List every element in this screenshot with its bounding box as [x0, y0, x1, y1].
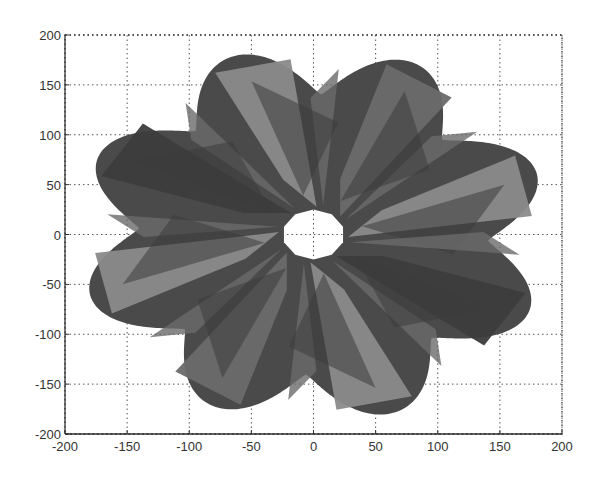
x-tick-label: 200: [551, 439, 573, 454]
y-axis-ticks: -200-150-100-50050100150200: [35, 28, 69, 442]
y-tick-label: -150: [35, 377, 61, 392]
x-tick-label: 50: [368, 439, 382, 454]
y-tick-label: 50: [47, 178, 61, 193]
x-tick-label: -100: [176, 439, 202, 454]
y-tick-label: -100: [35, 327, 61, 342]
y-tick-label: 150: [39, 78, 61, 93]
y-tick-label: 200: [39, 28, 61, 43]
x-tick-label: -50: [242, 439, 261, 454]
flower-surface: [89, 54, 538, 414]
x-tick-label: 150: [489, 439, 511, 454]
x-tick-label: 100: [427, 439, 449, 454]
y-tick-label: 0: [54, 228, 61, 243]
y-tick-label: -200: [35, 427, 61, 442]
x-tick-label: 0: [310, 439, 317, 454]
x-tick-label: -150: [114, 439, 140, 454]
y-tick-label: -50: [42, 277, 61, 292]
y-tick-label: 100: [39, 128, 61, 143]
chart: -200-150-100-50050100150200 -200-150-100…: [0, 0, 604, 482]
